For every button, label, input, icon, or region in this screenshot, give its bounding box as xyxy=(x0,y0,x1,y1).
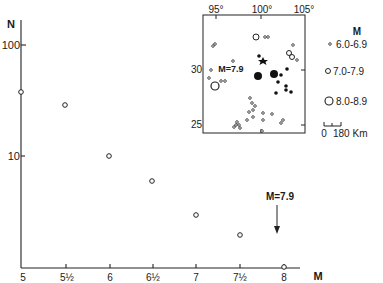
legend-entry-small: 6.0-6.9 xyxy=(336,39,368,50)
point-m7-5 xyxy=(238,233,243,238)
arrow-head-icon xyxy=(274,226,280,234)
map-frame xyxy=(203,15,305,133)
lon-label-105: 105° xyxy=(294,4,315,15)
x-tick-label-6-5: 6½ xyxy=(146,272,161,283)
annotation-m79: M=7.9 xyxy=(266,191,295,202)
legend-marker-small xyxy=(329,43,332,46)
lon-label-95: 95° xyxy=(208,4,223,15)
legend: M 6.0-6.9 7.0-7.9 8.0-8.9 0 180 Km xyxy=(321,26,367,139)
point-m5 xyxy=(19,90,24,95)
legend-marker-large xyxy=(325,97,333,105)
point-m8 xyxy=(282,265,287,270)
x-tick-label-8: 8 xyxy=(281,272,287,283)
x-tick-label-7-5: 7½ xyxy=(233,272,248,283)
legend-marker-medium xyxy=(326,69,331,74)
map-annotation-m79: M=7.9 xyxy=(218,64,243,74)
legend-entry-medium: 7.0-7.9 xyxy=(333,66,365,77)
scale-bar xyxy=(324,122,341,126)
figure: N 100 10 5 5½ 6 6½ 7 7½ 8 M M=7.9 95° 10… xyxy=(0,0,383,283)
scale-zero: 0 xyxy=(321,128,327,139)
lat-label-25: 25 xyxy=(191,119,203,130)
x-tick-label-7: 7 xyxy=(193,272,199,283)
point-m7 xyxy=(194,213,199,218)
x-tick-label-5: 5 xyxy=(20,272,26,283)
y-tick-label-10: 10 xyxy=(8,150,20,162)
legend-entry-large: 8.0-8.9 xyxy=(336,96,368,107)
lat-label-30: 30 xyxy=(191,64,203,75)
legend-title: M xyxy=(353,26,361,37)
x-tick-label-5-5: 5½ xyxy=(60,272,75,283)
y-axis-label: N xyxy=(7,18,15,30)
x-tick-label-6: 6 xyxy=(107,272,113,283)
x-axis-label: M xyxy=(313,270,322,282)
y-tick-label-100: 100 xyxy=(2,39,20,51)
scale-label: 180 Km xyxy=(333,128,367,139)
point-m5-5 xyxy=(63,103,68,108)
point-m6 xyxy=(107,154,112,159)
epicenter-large xyxy=(211,82,219,90)
lon-label-100: 100° xyxy=(252,4,273,15)
inset-map: 95° 100° 105° 30 25 M=7.9 xyxy=(191,4,314,133)
point-m6-5 xyxy=(150,179,155,184)
